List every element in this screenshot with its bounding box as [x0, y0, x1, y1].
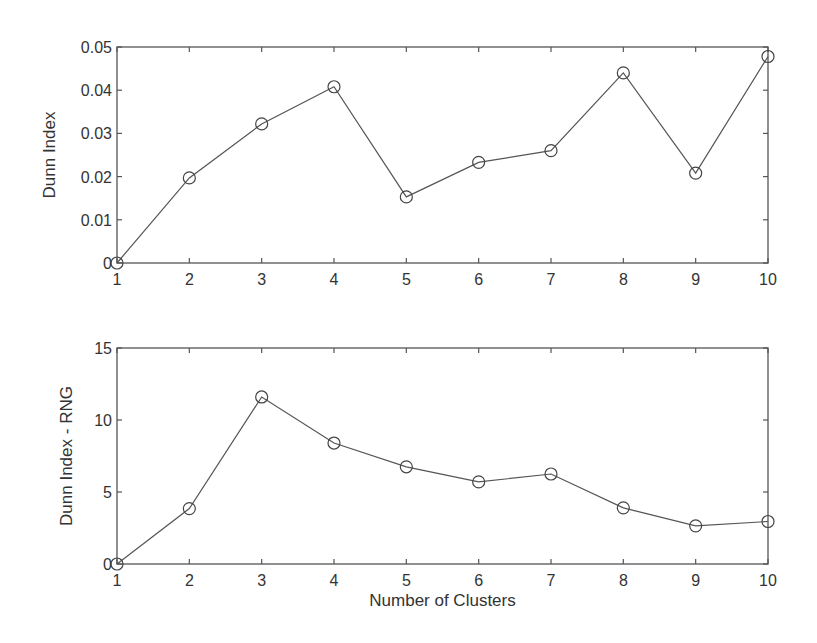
x-tick-label: 3	[257, 271, 266, 288]
y-tick-label: 0.01	[81, 212, 112, 229]
x-tick-label: 7	[547, 271, 556, 288]
x-tick-label: 8	[619, 572, 628, 589]
x-tick-label: 10	[759, 572, 777, 589]
x-tick-label: 1	[113, 271, 122, 288]
y-axis-title: Dunn Index	[40, 111, 59, 198]
y-tick-label: 15	[94, 340, 112, 357]
y-tick-label: 5	[103, 484, 112, 501]
x-tick-label: 2	[185, 271, 194, 288]
x-tick-label: 9	[691, 271, 700, 288]
x-tick-label: 8	[619, 271, 628, 288]
x-tick-label: 9	[691, 572, 700, 589]
y-tick-label: 0.05	[81, 39, 112, 56]
y-tick-label: 0.04	[81, 82, 112, 99]
x-tick-label: 4	[330, 271, 339, 288]
x-tick-label: 6	[474, 572, 483, 589]
x-tick-label: 6	[474, 271, 483, 288]
x-tick-label: 7	[547, 572, 556, 589]
x-tick-label: 1	[113, 572, 122, 589]
x-tick-label: 3	[257, 572, 266, 589]
x-tick-label: 10	[759, 271, 777, 288]
x-axis-title: Number of Clusters	[369, 591, 515, 610]
figure: 1234567891000.010.020.030.040.05Dunn Ind…	[0, 0, 817, 643]
y-axis-title: Dunn Index - RNG	[57, 386, 76, 526]
plot-frame	[117, 348, 768, 564]
x-tick-label: 5	[402, 271, 411, 288]
plot-frame	[117, 47, 768, 263]
x-tick-label: 5	[402, 572, 411, 589]
x-tick-label: 2	[185, 572, 194, 589]
y-tick-label: 10	[94, 412, 112, 429]
y-tick-label: 0.02	[81, 169, 112, 186]
y-tick-label: 0.03	[81, 125, 112, 142]
series-line	[117, 397, 768, 564]
series-line	[117, 57, 768, 263]
x-tick-label: 4	[330, 572, 339, 589]
dunn-index-panel: 1234567891000.010.020.030.040.05Dunn Ind…	[40, 39, 777, 288]
dunn-index-rng-panel: 12345678910051015Dunn Index - RNGNumber …	[57, 340, 777, 610]
